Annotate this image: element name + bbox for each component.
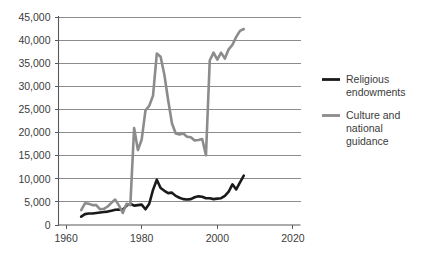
y-tick-label: 25,000: [18, 103, 50, 115]
x-tick-label: 2020: [281, 232, 305, 244]
series-line-religious-endowments: [81, 176, 244, 217]
y-tick-label: 0: [45, 219, 51, 231]
legend-label: guidance: [346, 135, 389, 147]
y-tick-label: 15,000: [18, 149, 50, 161]
x-tick-label: 1980: [130, 232, 154, 244]
series-line-culture-national-guidance: [81, 29, 244, 213]
x-tick-label: 1960: [54, 232, 78, 244]
y-tickmarks-group: [55, 17, 59, 225]
y-tick-label: 20,000: [18, 126, 50, 138]
legend-label: national: [346, 122, 383, 134]
y-tick-label: 30,000: [18, 80, 50, 92]
x-tickmarks-group: [66, 225, 293, 229]
line-chart: 05,00010,00015,00020,00025,00030,00035,0…: [0, 0, 428, 260]
legend-label: Culture and: [346, 109, 400, 121]
y-tick-label: 35,000: [18, 57, 50, 69]
gridlines-group: [59, 17, 301, 202]
legend-label: Religious: [346, 73, 389, 85]
y-tick-labels-group: 05,00010,00015,00020,00025,00030,00035,0…: [18, 11, 50, 231]
y-tick-label: 40,000: [18, 34, 50, 46]
y-tick-label: 10,000: [18, 173, 50, 185]
y-tick-label: 5,000: [24, 196, 50, 208]
chart-legend: ReligiousendowmentsCulture andnationalgu…: [322, 73, 406, 147]
chart-figure: 05,00010,00015,00020,00025,00030,00035,0…: [0, 0, 428, 260]
series-lines-group: [81, 29, 244, 217]
x-tick-label: 2000: [206, 232, 230, 244]
y-tick-label: 45,000: [18, 11, 50, 23]
legend-label: endowments: [346, 86, 406, 98]
x-tick-labels-group: 1960198020002020: [54, 232, 304, 244]
